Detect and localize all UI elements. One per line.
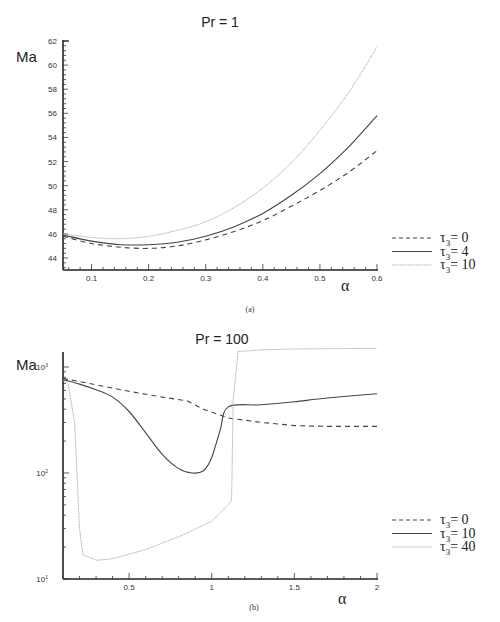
- series-line: [63, 116, 377, 245]
- chart-b-legend: τ3= 0τ3= 10τ3= 40: [392, 512, 476, 557]
- x-tick-label: 0.4: [257, 274, 269, 283]
- y-tick-label: 103: [36, 362, 48, 372]
- y-tick-label: 44: [48, 254, 57, 263]
- chart-b-title: Pr = 100: [195, 331, 249, 347]
- y-tick-label: 101: [36, 574, 48, 584]
- chart-a-x-label: α: [341, 277, 350, 294]
- chart-a-legend: τ3= 0τ3= 4τ3= 10: [392, 230, 476, 275]
- x-tick-label: 0.6: [371, 274, 383, 283]
- chart-b-x-label: α: [338, 590, 347, 607]
- y-tick-label: 102: [36, 468, 48, 478]
- chart-b: Pr = 100 Ma 1011021030.511.52 α (b) τ3= …: [16, 331, 476, 612]
- x-tick-label: 0.3: [200, 274, 212, 283]
- legend-entry-label: τ3= 40: [440, 539, 476, 557]
- y-tick-label: 62: [48, 37, 57, 46]
- chart-b-axes: 1011021030.511.52: [36, 352, 379, 592]
- x-tick-label: 0.2: [143, 274, 155, 283]
- x-tick-label: 1.5: [289, 583, 301, 592]
- chart-a-caption: (a): [246, 305, 255, 314]
- y-tick-label: 58: [48, 85, 57, 94]
- chart-a: Pr = 1 Ma 444648505254565860620.10.20.30…: [16, 14, 476, 314]
- y-tick-label: 52: [48, 158, 57, 167]
- y-tick-label: 60: [48, 61, 57, 70]
- chart-b-y-label: Ma: [16, 356, 37, 373]
- x-tick-label: 1: [210, 583, 215, 592]
- chart-b-caption: (b): [249, 603, 259, 612]
- series-line: [63, 47, 377, 239]
- legend-entry-label: τ3= 10: [440, 257, 476, 275]
- series-line: [63, 348, 377, 560]
- y-tick-label: 48: [48, 206, 57, 215]
- chart-a-y-label: Ma: [16, 48, 37, 65]
- chart-a-axes: 444648505254565860620.10.20.30.40.50.6: [48, 37, 383, 283]
- figure: Pr = 1 Ma 444648505254565860620.10.20.30…: [0, 0, 500, 622]
- series-line: [63, 378, 377, 426]
- x-tick-label: 0.5: [314, 274, 326, 283]
- x-tick-label: 0.5: [124, 583, 136, 592]
- y-tick-label: 50: [48, 182, 57, 191]
- y-tick-label: 46: [48, 230, 57, 239]
- y-tick-label: 56: [48, 109, 57, 118]
- chart-a-title: Pr = 1: [201, 14, 239, 30]
- y-tick-label: 54: [48, 133, 57, 142]
- chart-a-plot-area: [63, 47, 377, 248]
- x-tick-label: 2: [375, 583, 380, 592]
- x-tick-label: 0.1: [86, 274, 98, 283]
- chart-b-plot-area: [63, 348, 377, 560]
